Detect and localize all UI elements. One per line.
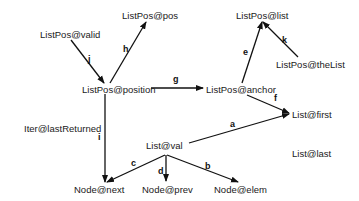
svg-text:e: e xyxy=(243,47,248,57)
node-listpos-pos: ListPos@pos xyxy=(122,10,178,21)
edge-i: i xyxy=(98,94,105,182)
node-list-first: List@first xyxy=(292,109,332,120)
node-listpos-thelist: ListPos@theList xyxy=(276,59,345,70)
node-iter-lastreturned: Iter@lastReturned xyxy=(24,123,101,134)
node-listpos-valid: ListPos@valid xyxy=(40,29,100,40)
dependency-diagram: j h g e k f a i c d b ListPos@valid Lis xyxy=(0,0,359,201)
node-node-prev: Node@prev xyxy=(142,184,193,195)
edge-f: f xyxy=(247,93,289,113)
svg-text:j: j xyxy=(87,54,91,64)
edge-b: b xyxy=(167,155,238,182)
svg-text:b: b xyxy=(205,161,211,171)
svg-text:c: c xyxy=(131,158,136,168)
svg-text:g: g xyxy=(173,74,179,84)
svg-text:a: a xyxy=(230,119,236,129)
edge-c: c xyxy=(107,155,165,182)
node-node-next: Node@next xyxy=(74,184,125,195)
node-listpos-list: ListPos@list xyxy=(236,10,289,21)
svg-text:h: h xyxy=(123,44,129,54)
node-listpos-position: ListPos@position xyxy=(82,84,156,95)
edge-d: d xyxy=(158,155,166,181)
edge-g: g xyxy=(151,74,203,88)
edge-e: e xyxy=(242,22,262,83)
edge-k: k xyxy=(263,22,298,57)
node-list-val: List@val xyxy=(146,140,183,151)
edge-j: j xyxy=(71,40,104,83)
svg-text:k: k xyxy=(282,35,288,45)
edge-a: a xyxy=(189,114,289,143)
svg-text:d: d xyxy=(158,166,164,176)
node-listpos-anchor: ListPos@anchor xyxy=(206,84,276,95)
node-node-elem: Node@elem xyxy=(214,184,267,195)
node-list-last: List@last xyxy=(292,148,332,159)
edge-h: h xyxy=(110,22,146,83)
